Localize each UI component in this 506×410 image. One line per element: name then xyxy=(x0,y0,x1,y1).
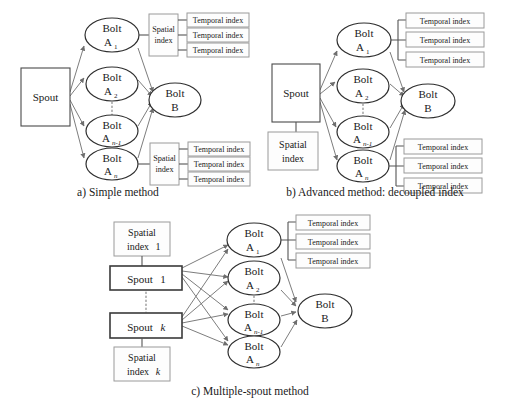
panel-b-temporal-bottom-1[interactable]: Temporal index xyxy=(404,139,482,154)
panel-b-bolt-an-1-title: Bolt xyxy=(354,120,373,132)
panel-a-temporal-bottom-2[interactable]: Temporal index xyxy=(188,157,250,171)
panel-b-bolt-an[interactable]: Bolt A n xyxy=(337,150,389,182)
panel-c-bolt-a2-sub: 2 xyxy=(256,286,260,294)
panel-a-bolt-b-label: B xyxy=(171,101,178,113)
panel-a-temporal-bottom-1[interactable]: Temporal index xyxy=(188,142,250,156)
panel-b-bolt-an-1-label: A xyxy=(353,133,361,145)
panel-a-spatial-index-top[interactable]: Spatial index xyxy=(149,14,178,56)
panel-c-spatial-index-1[interactable]: Spatial index 1 xyxy=(114,222,170,256)
panel-a-bolt-a1-label: A xyxy=(104,36,112,48)
panel-b-edges-spout xyxy=(320,51,337,160)
panel-a-edges-spout xyxy=(70,46,84,158)
panel-c-spout-k[interactable]: Spout k xyxy=(110,313,182,338)
panel-c-spatial-index-k-line2: index xyxy=(127,366,149,377)
panel-c-bolt-a1[interactable]: Bolt A 1 xyxy=(227,223,281,257)
panel-c-bolt-a2[interactable]: Bolt A 2 xyxy=(228,261,280,295)
panel-b-temporal-top-2[interactable]: Temporal index xyxy=(406,32,484,47)
panel-c-spout-1-label: Spout xyxy=(127,273,153,285)
panel-c-spatial-index-1-suffix: 1 xyxy=(156,241,161,252)
panel-b-temporal-top-3[interactable]: Temporal index xyxy=(406,52,484,67)
panel-b-spatial-index-line1: Spatial xyxy=(279,139,307,150)
panel-c-temporal-1[interactable]: Temporal index xyxy=(296,215,370,230)
panel-b-bracket-top xyxy=(391,20,406,60)
panel-c-spout-1[interactable]: Spout 1 xyxy=(110,266,182,290)
panel-c-bolt-an-sub: n xyxy=(256,360,260,368)
panel-a-bolt-a2-title: Bolt xyxy=(103,71,122,83)
panel-b-temporal-bottom-2[interactable]: Temporal index xyxy=(404,158,482,173)
panel-c-bolt-an[interactable]: Bolt A n xyxy=(228,336,280,368)
diagram-svg: Spout Bolt A 1 Bolt A 2 Bolt A n-1 Bolt xyxy=(0,0,506,410)
panel-a-bolt-an-sub: n xyxy=(114,172,118,180)
panel-a-bolt-an-title: Bolt xyxy=(103,152,122,164)
panel-b-bolt-an-title: Bolt xyxy=(354,154,373,166)
panel-c-temporal-3[interactable]: Temporal index xyxy=(296,253,370,268)
panel-a-bolt-a1[interactable]: Bolt A 1 xyxy=(85,18,139,52)
panel-a-bolt-a2-sub: 2 xyxy=(114,92,118,100)
panel-c-bolt-an-1-title: Bolt xyxy=(245,308,264,320)
panel-a-temporal-top-3[interactable]: Temporal index xyxy=(187,43,249,57)
panel-c-bolt-a1-title: Bolt xyxy=(245,227,264,239)
panel-b-bolt-an-label: A xyxy=(355,167,363,179)
panel-c-edges-sink xyxy=(281,258,297,347)
panel-b-temporal-top-1[interactable]: Temporal index xyxy=(406,13,484,28)
panel-b-bolt-b-label: B xyxy=(424,102,431,114)
panel-b-bolt-b[interactable]: Bolt B xyxy=(401,84,455,118)
panel-b-spatial-index[interactable]: Spatial index xyxy=(268,132,318,170)
panel-a-bolt-a2[interactable]: Bolt A 2 xyxy=(86,67,138,101)
panel-a-spatial-index-top-line2: index xyxy=(154,36,172,45)
panel-a-spatial-index-bottom[interactable]: Spatial index xyxy=(150,143,179,185)
panel-c-bolt-an-1-label: A xyxy=(244,321,252,333)
panel-c-spatial-index-k[interactable]: Spatial index k xyxy=(114,347,170,381)
panel-b-bolt-a1[interactable]: Bolt A 1 xyxy=(337,23,391,57)
panel-c-temporal-2[interactable]: Temporal index xyxy=(296,234,370,249)
panel-a-bolt-an-1-label: A xyxy=(102,132,110,144)
panel-a-temporal-bottom-3-label: Temporal index xyxy=(194,175,244,184)
panel-b-spout[interactable]: Spout xyxy=(272,64,320,122)
panel-c-bolt-b[interactable]: Bolt B xyxy=(298,294,352,328)
panel-a-bolt-an-1[interactable]: Bolt A n-1 xyxy=(86,115,138,147)
panel-c-spatial-index-1-line2: index xyxy=(127,241,149,252)
panel-c-bolt-a2-title: Bolt xyxy=(245,265,264,277)
panel-c-bolt-an-1[interactable]: Bolt A n-1 xyxy=(228,304,280,336)
panel-b-bolt-a2[interactable]: Bolt A 2 xyxy=(337,69,389,103)
panel-a-temporal-top-2[interactable]: Temporal index xyxy=(187,28,249,42)
panel-a-caption: a) Simple method xyxy=(77,186,159,199)
panel-c-bolt-an-title: Bolt xyxy=(245,340,264,352)
panel-c-temporal-1-label: Temporal index xyxy=(308,219,358,228)
panel-a-spatial-index-top-line1: Spatial xyxy=(152,25,175,34)
panel-c-bolt-an-label: A xyxy=(246,353,254,365)
panel-a-bolt-a1-sub: 1 xyxy=(114,43,118,51)
panel-b-bolt-an-sub: n xyxy=(365,174,369,182)
panel-b-bolt-a2-label: A xyxy=(355,87,363,99)
panel-a-bolt-b[interactable]: Bolt B xyxy=(149,83,201,117)
panel-a-temporal-top-1[interactable]: Temporal index xyxy=(187,13,249,27)
panel-a: Spout Bolt A 1 Bolt A 2 Bolt A n-1 Bolt xyxy=(21,13,250,199)
panel-b-temporal-bottom-1-label: Temporal index xyxy=(418,143,468,152)
panel-b-bolt-a1-title: Bolt xyxy=(355,27,374,39)
panel-b-bolt-an-1-sub: n-1 xyxy=(363,140,372,148)
panel-c-bracket xyxy=(281,222,296,260)
panel-a-bolt-an-1-title: Bolt xyxy=(103,119,122,131)
panel-c-bolt-an-1-sub: n-1 xyxy=(254,328,263,336)
panel-c-bolt-b-label: B xyxy=(321,312,328,324)
panel-a-spout-label: Spout xyxy=(33,91,59,103)
panel-a-bolt-an[interactable]: Bolt A n xyxy=(86,148,138,180)
panel-b-bolt-a2-title: Bolt xyxy=(354,73,373,85)
panel-a-temporal-bottom-3[interactable]: Temporal index xyxy=(188,172,250,186)
panel-b: Spout Spatial index Bolt A 1 Bolt A 2 Bo… xyxy=(268,13,484,199)
panel-a-temporal-top-2-label: Temporal index xyxy=(193,31,243,40)
panel-c-spatial-index-k-suffix: k xyxy=(156,366,161,377)
panel-a-spatial-index-bottom-line1: Spatial xyxy=(153,154,176,163)
panel-a-spout[interactable]: Spout xyxy=(21,68,70,126)
panel-b-bolt-an-1[interactable]: Bolt A n-1 xyxy=(337,116,389,148)
panel-c: Spatial index 1 Spout 1 Spout k Spatial … xyxy=(110,215,370,398)
panel-b-temporal-top-2-label: Temporal index xyxy=(420,36,470,45)
panel-a-temporal-bottom-1-label: Temporal index xyxy=(194,145,244,154)
panel-c-spatial-index-1-line1: Spatial xyxy=(128,227,156,238)
panel-b-spout-label: Spout xyxy=(283,87,309,99)
panel-a-bolt-a1-title: Bolt xyxy=(103,22,122,34)
panel-b-temporal-top-1-label: Temporal index xyxy=(420,17,470,26)
panel-c-temporal-3-label: Temporal index xyxy=(308,257,358,266)
panel-a-temporal-top-3-label: Temporal index xyxy=(193,46,243,55)
panel-b-bolt-a1-sub: 1 xyxy=(366,48,370,56)
